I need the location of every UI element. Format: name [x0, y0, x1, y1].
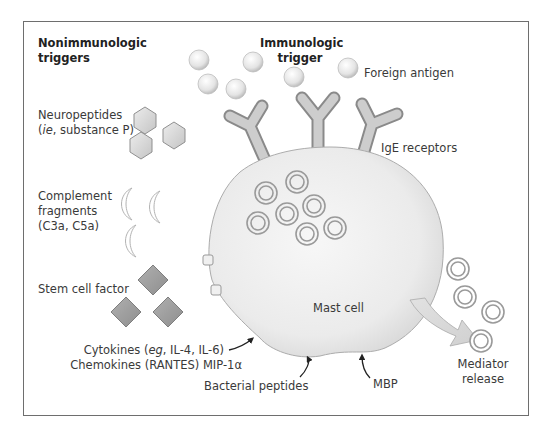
granule-icon — [447, 258, 469, 280]
label-line: (ie, substance P) — [38, 123, 134, 138]
label-cytokines: Cytokines (eg, IL-4, IL-6) — [50, 343, 224, 358]
diamond-icon — [138, 265, 168, 295]
crescent-icon — [122, 188, 133, 220]
granule-icon — [482, 301, 504, 323]
text-span-italic: eg — [148, 343, 162, 357]
granule-icon — [470, 330, 492, 352]
label-mast-cell: Mast cell — [313, 301, 364, 316]
heading-line: triggers — [38, 51, 147, 66]
text-span-italic: ie — [43, 123, 53, 137]
crescent-icon — [150, 191, 161, 223]
heading-immunologic: Immunologic trigger — [260, 36, 340, 66]
label-line: Complement — [38, 189, 112, 204]
hexagon-icon — [163, 122, 185, 149]
crescent-icon — [126, 225, 137, 257]
diamond-icon — [153, 297, 183, 327]
label-stem-cell-factor: Stem cell factor — [38, 282, 129, 297]
heading-line: trigger — [260, 51, 340, 66]
label-line: (C3a, C5a) — [38, 219, 112, 234]
label-line: Mediator — [453, 357, 513, 372]
neuropeptides — [130, 107, 185, 159]
mast-cell-body — [209, 147, 443, 357]
text-span: , IL-4, IL-6) — [163, 343, 224, 357]
label-mbp: MBP — [373, 377, 398, 392]
complement-fragments — [122, 188, 161, 257]
text-span: Cytokines ( — [84, 343, 149, 357]
bacterial-peptides-arrow-icon — [300, 358, 309, 377]
diamond-icon — [111, 297, 141, 327]
antigen-sphere-icon — [284, 67, 304, 87]
label-line: release — [453, 372, 513, 387]
label-complement: Complement fragments (C3a, C5a) — [38, 189, 112, 234]
antigen-sphere-icon — [198, 74, 218, 94]
hexagon-icon — [134, 107, 156, 134]
label-chemokines: Chemokines (RANTES) MIP-1α — [50, 358, 242, 373]
label-ige-receptors: IgE receptors — [381, 141, 457, 156]
label-foreign-antigen: Foreign antigen — [364, 66, 454, 81]
antigen-sphere-icon — [189, 50, 209, 70]
heading-line: Nonimmunologic — [38, 36, 147, 51]
text-span: , substance P) — [53, 123, 134, 137]
receptor-box-icon — [203, 255, 213, 265]
label-neuropeptides: Neuropeptides (ie, substance P) — [38, 108, 134, 138]
label-bacterial-peptides: Bacterial peptides — [204, 379, 308, 394]
cytokines-arrow-icon — [229, 339, 252, 350]
heading-line: Immunologic — [260, 36, 340, 51]
receptor-box-icon — [211, 285, 221, 295]
mbp-arrow-icon — [362, 356, 370, 378]
label-line: Neuropeptides — [38, 108, 134, 123]
heading-nonimmunologic: Nonimmunologic triggers — [38, 36, 147, 66]
antigen-sphere-icon — [226, 79, 246, 99]
label-line: fragments — [38, 204, 112, 219]
antigen-sphere-icon — [338, 58, 358, 78]
label-mediator-release: Mediator release — [453, 357, 513, 387]
granule-icon — [454, 286, 476, 308]
